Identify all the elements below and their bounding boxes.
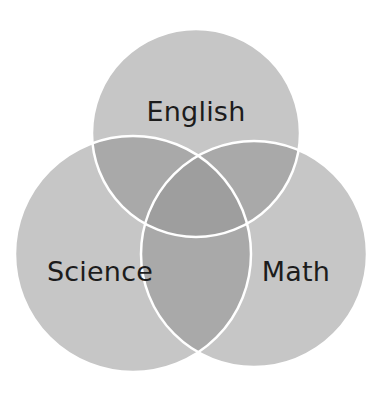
- set-label-science: Science: [47, 256, 153, 287]
- venn-diagram-canvas: English Science Math: [0, 0, 390, 400]
- venn-diagram-figure: English Science Math: [0, 0, 390, 400]
- set-label-math: Math: [262, 256, 330, 287]
- set-label-english: English: [147, 96, 246, 127]
